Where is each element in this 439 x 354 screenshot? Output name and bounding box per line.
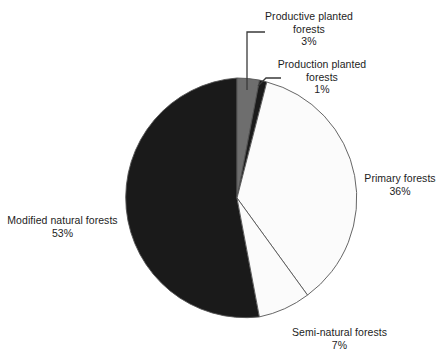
pie-label-productive-planted-forests: Productive planted forests 3% — [249, 10, 369, 48]
pie-label-value: 36% — [361, 185, 439, 198]
pie-label-text-line1: Productive planted — [265, 10, 353, 22]
pie-label-text-line1: Semi-natural forests — [292, 326, 387, 338]
pie-label-value: 7% — [277, 339, 402, 352]
pie-label-production-planted-forests: Production planted forests 1% — [263, 58, 381, 96]
pie-label-value: 53% — [6, 227, 119, 240]
pie-label-text-line2: forests — [293, 23, 325, 35]
pie-label-value: 1% — [263, 83, 381, 96]
pie-label-text-line2: forests — [306, 71, 338, 83]
pie-label-value: 3% — [249, 35, 369, 48]
pie-label-text-line1: Primary forests — [364, 172, 435, 184]
pie-label-text-line1: Modified natural forests — [7, 214, 117, 226]
pie-label-modified-natural-forests: Modified natural forests 53% — [6, 214, 119, 239]
pie-label-primary-forests: Primary forests 36% — [361, 172, 439, 197]
pie-label-semi-natural-forests: Semi-natural forests 7% — [277, 326, 402, 351]
pie-label-text-line1: Production planted — [278, 58, 366, 70]
pie-chart: Productive planted forests 3% Production… — [0, 0, 439, 354]
